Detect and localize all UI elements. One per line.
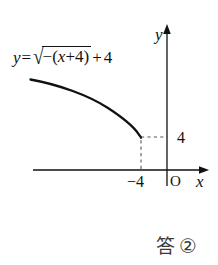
y-axis-label: y: [155, 26, 163, 43]
answer-choice-number: ②: [179, 236, 197, 256]
radical-expression: √−(x+4): [32, 47, 91, 66]
answer-glyph-icon: 答: [156, 237, 175, 256]
equation-outer-plus: +: [91, 48, 103, 67]
radicand: −(x+4): [42, 46, 92, 65]
figure-container: y=√−(x+4)+4 y x O −4 4 答 ②: [0, 0, 218, 265]
origin-label: O: [170, 174, 181, 189]
x-axis-label: x: [196, 173, 204, 190]
function-curve: [31, 80, 142, 138]
radicand-plus: +: [65, 47, 75, 66]
equation-lhs: y: [13, 48, 21, 67]
radicand-minus: −: [43, 47, 53, 66]
x-tick-label-neg4: −4: [127, 174, 144, 190]
answer-marker: 答 ②: [156, 236, 197, 256]
equation-label: y=√−(x+4)+4: [13, 47, 113, 66]
coordinate-plane-svg: [0, 0, 218, 265]
equation-outer-constant: 4: [103, 48, 114, 67]
equation-equals: =: [21, 48, 33, 67]
y-tick-label-4: 4: [177, 130, 185, 146]
radicand-close-paren: ): [83, 47, 89, 66]
